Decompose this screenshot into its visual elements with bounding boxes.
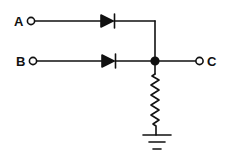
resistor-icon (151, 74, 159, 135)
terminal-c (196, 57, 203, 64)
diode-a-icon (101, 15, 113, 27)
diode-b-icon (102, 55, 114, 67)
terminal-a (27, 17, 34, 24)
terminal-b (29, 57, 36, 64)
label-c: C (207, 54, 217, 69)
label-a: A (14, 14, 24, 29)
label-b: B (16, 54, 25, 69)
diode-or-gate-diagram: A B C (0, 0, 229, 160)
